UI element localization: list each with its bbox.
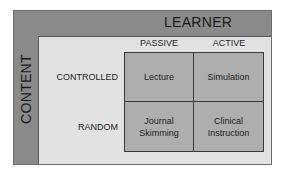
cell-text-line-1: Clinical (208, 115, 250, 127)
row-header-random: RANDOM (38, 122, 118, 132)
row-header-controlled: CONTROLLED (38, 72, 118, 82)
cell-text-line-2: Skimming (139, 127, 179, 139)
learner-axis-label: LEARNER (164, 14, 232, 30)
cell-random-active: Clinical Instruction (194, 102, 263, 151)
cell-text: Simulation (207, 71, 249, 83)
column-header-passive: PASSIVE (124, 38, 194, 48)
cell-controlled-passive: Lecture (125, 53, 194, 102)
content-axis-band: CONTENT (14, 11, 38, 166)
matrix-grid: Lecture Simulation Journal Skimming Clin… (124, 52, 264, 152)
cell-controlled-active: Simulation (194, 53, 263, 102)
cell-text-line-1: Journal (139, 115, 179, 127)
cell-text-line-2: Instruction (208, 127, 250, 139)
column-header-active: ACTIVE (194, 38, 264, 48)
cell-random-passive: Journal Skimming (125, 102, 194, 151)
content-axis-label: CONTENT (18, 54, 34, 124)
cell-text: Lecture (144, 71, 174, 83)
